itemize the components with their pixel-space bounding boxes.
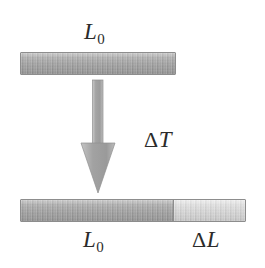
label-bottom-initial-length-symbol: L [83,227,96,252]
label-top-initial-length: L0 [84,20,105,47]
label-top-initial-length-symbol: L [84,19,97,44]
heating-arrow [74,78,122,196]
label-temperature-change-symbol: T [159,127,172,152]
label-bottom-initial-length-subscript: 0 [96,239,104,255]
bar-segment-expansion-length [174,200,245,221]
label-length-change-symbol: L [207,227,220,252]
arrow-head [81,143,115,193]
label-top-initial-length-subscript: 0 [97,31,105,47]
bar-segment-original-length [21,200,173,221]
arrow-shaft [93,80,104,144]
bar-segment-divider [173,200,174,221]
label-length-change-delta: Δ [192,227,207,252]
label-temperature-change-delta: Δ [144,127,159,152]
thermal-expansion-diagram: L0 [0,0,265,268]
label-bottom-initial-length: L0 [83,228,104,255]
bar-initial-rod [20,52,176,75]
bar-expanded-rod [20,199,246,222]
label-length-change: ΔL [192,228,219,251]
bar-segment-original-length [21,53,175,74]
label-temperature-change: ΔT [144,128,171,151]
